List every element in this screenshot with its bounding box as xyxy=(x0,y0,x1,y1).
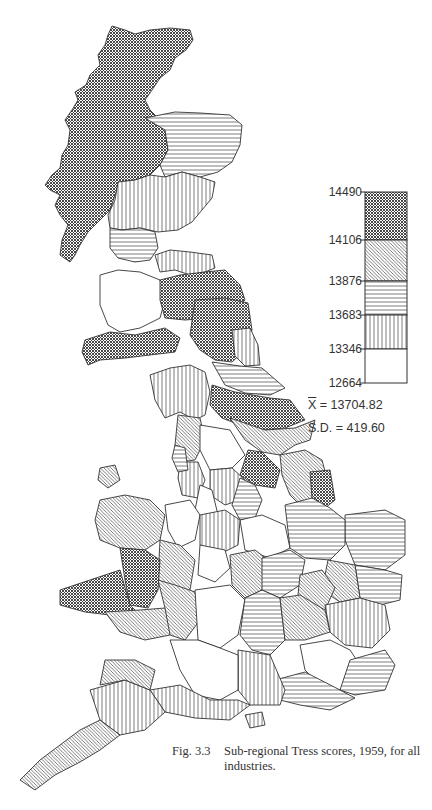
region-cornwall xyxy=(20,720,120,790)
legend-swatches xyxy=(360,192,407,383)
caption-line-1: Sub-regional Tress scores, 1959, for all xyxy=(224,744,420,758)
region-west-yorks xyxy=(200,425,245,470)
mean-value: = 13704.82 xyxy=(320,398,383,412)
region-tayside xyxy=(108,172,215,232)
caption-number: Fig. 3.3 xyxy=(172,744,224,759)
sd-stat: S.D. = 419.60 xyxy=(308,421,428,435)
caption-line-2: industries. xyxy=(172,759,422,774)
region-central xyxy=(110,228,158,262)
region-strathclyde xyxy=(100,270,165,332)
legend-break-3: 13876 xyxy=(300,275,362,287)
region-oxford xyxy=(240,590,285,655)
legend-break-4: 13683 xyxy=(300,309,362,321)
legend-break-6: 12664 xyxy=(300,377,362,389)
region-isle-of-wight xyxy=(245,712,265,728)
figure-caption: Fig. 3.3Sub-regional Tress scores, 1959,… xyxy=(172,744,422,774)
legend-break-2: 14106 xyxy=(300,234,362,246)
region-anglesey xyxy=(98,465,120,488)
region-gloucester xyxy=(195,585,245,648)
region-hampshire xyxy=(238,650,285,705)
mean-symbol: X xyxy=(308,398,316,412)
region-lothian xyxy=(155,250,215,275)
region-norfolk xyxy=(345,510,405,570)
legend-break-5: 13346 xyxy=(300,343,362,355)
mean-stat: X = 13704.82 xyxy=(308,398,428,412)
legend-break-1: 14490 xyxy=(300,186,362,198)
region-west-wales xyxy=(60,570,135,615)
region-cheshire xyxy=(165,500,200,548)
sd-value: = 419.60 xyxy=(336,421,385,435)
region-dumfries xyxy=(82,328,180,365)
region-cumbria xyxy=(150,365,210,420)
region-birmingham xyxy=(198,545,230,582)
region-durham xyxy=(232,328,260,366)
region-north-wales xyxy=(95,495,165,550)
region-essex xyxy=(325,598,390,648)
region-cambs xyxy=(285,498,345,560)
sd-label: S.D. xyxy=(308,421,332,435)
